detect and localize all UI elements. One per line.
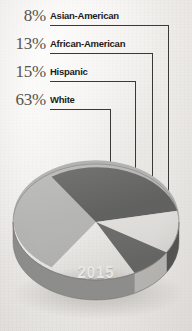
pie-chart-figure: 8% Asian-American 13% African-American 1… — [0, 0, 192, 331]
pie-chart: 2015 — [0, 0, 192, 331]
pie-year-label: 2015 — [12, 263, 181, 283]
